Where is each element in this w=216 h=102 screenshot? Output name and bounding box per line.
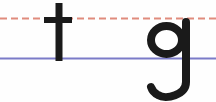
handwriting-practice-image bbox=[0, 0, 216, 102]
letter-g-svg bbox=[140, 16, 202, 102]
letter-g-glyph bbox=[140, 16, 202, 102]
letter-g-bowl bbox=[151, 26, 182, 54]
letter-t-glyph bbox=[40, 0, 80, 66]
letter-t-svg bbox=[40, 0, 80, 66]
